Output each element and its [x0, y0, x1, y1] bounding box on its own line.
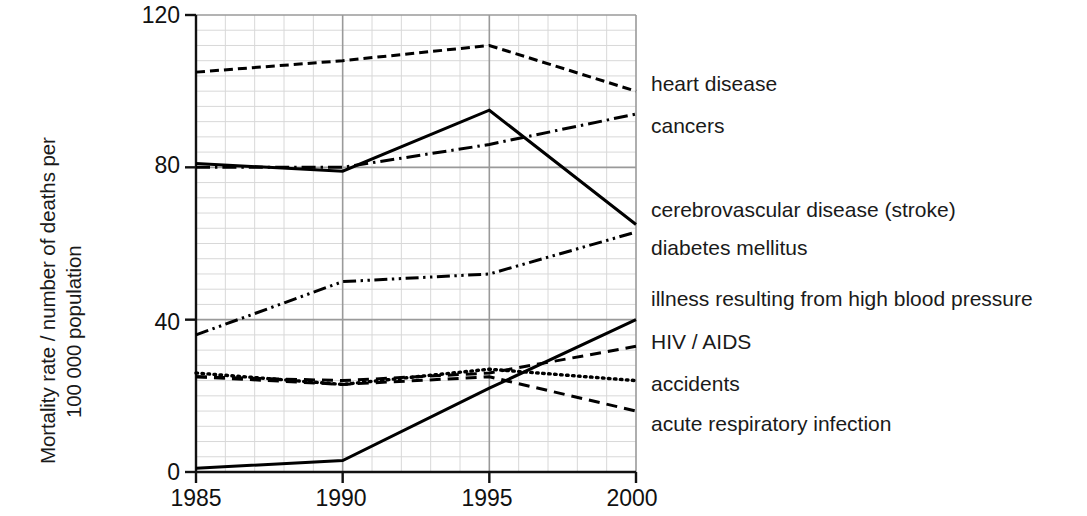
legend-item-heart-disease[interactable]: heart disease [651, 73, 777, 94]
legend-item-accidents[interactable]: accidents [651, 373, 740, 394]
legend-item-cancers[interactable]: cancers [651, 115, 725, 136]
legend-item-high-blood-pressure[interactable]: illness resulting from high blood pressu… [651, 288, 1033, 309]
axis-ticks [185, 15, 636, 483]
series-line-heart-disease [196, 45, 636, 91]
mortality-rate-line-chart: Mortality rate / number of deaths per 10… [0, 0, 1087, 516]
legend-item-diabetes-mellitus[interactable]: diabetes mellitus [651, 237, 807, 258]
minor-gridlines [196, 15, 636, 472]
series-line-diabetes-mellitus [196, 377, 636, 411]
legend-item-hiv-aids[interactable]: HIV / AIDS [651, 331, 751, 352]
legend: heart disease cancers cerebrovascular di… [651, 0, 1087, 516]
legend-item-acute-respiratory[interactable]: acute respiratory infection [651, 413, 891, 434]
series-line-hiv-aids [196, 320, 636, 469]
data-series-group [196, 45, 636, 468]
legend-item-cerebrovascular-disease[interactable]: cerebrovascular disease (stroke) [651, 199, 956, 220]
